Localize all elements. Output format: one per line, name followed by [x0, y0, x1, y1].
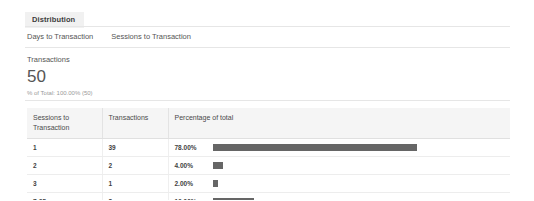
transactions-value: 39: [109, 144, 116, 151]
percentage-label: 16.00%: [175, 197, 213, 200]
table-row: 312.00%: [27, 175, 510, 193]
percentage-bar-group: 78.00%: [175, 143, 511, 152]
cell-dimension: 7-25: [27, 193, 102, 201]
transactions-value: 2: [109, 162, 113, 169]
secondary-tab-strip: Days to Transaction Sessions to Transact…: [27, 31, 209, 44]
column-header-transactions[interactable]: Transactions: [102, 108, 168, 139]
dimension-value: 3: [33, 180, 37, 187]
tab-sessions-to-transaction[interactable]: Sessions to Transaction: [111, 31, 191, 42]
percentage-bar-group: 2.00%: [175, 179, 511, 188]
cell-percentage: 2.00%: [168, 175, 510, 193]
cell-transactions: 39: [102, 139, 168, 157]
cell-transactions: 2: [102, 157, 168, 175]
cell-percentage: 16.00%: [168, 193, 510, 201]
cell-transactions: 1: [102, 175, 168, 193]
metric-summary: Transactions 50 % of Total: 100.00% (50): [27, 54, 93, 98]
cell-transactions: 8: [102, 193, 168, 201]
divider-under-primary-tab: [25, 26, 510, 27]
percentage-bar-group: 4.00%: [175, 161, 511, 170]
cell-percentage: 4.00%: [168, 157, 510, 175]
table-body: 13978.00%224.00%312.00%7-25816.00%: [27, 139, 510, 201]
table-row: 7-25816.00%: [27, 193, 510, 201]
dimension-value: 1: [33, 144, 37, 151]
column-header-percentage[interactable]: Percentage of total: [168, 108, 510, 139]
percentage-bar: [213, 144, 417, 151]
percentage-label: 2.00%: [175, 179, 213, 188]
divider-above-table: [25, 100, 510, 101]
cell-dimension: 1: [27, 139, 102, 157]
primary-tab-strip: Distribution: [25, 8, 510, 25]
cell-dimension: 2: [27, 157, 102, 175]
dimension-value: 7-25: [33, 198, 46, 200]
percentage-bar: [213, 180, 218, 187]
metric-percent-of-total: % of Total: 100.00% (50): [27, 89, 93, 98]
divider-under-secondary-tabs: [25, 47, 510, 48]
transactions-value: 8: [109, 198, 113, 200]
cell-percentage: 78.00%: [168, 139, 510, 157]
metric-value: 50: [27, 67, 93, 87]
dimension-value: 2: [33, 162, 37, 169]
distribution-report-panel: Distribution Days to Transaction Session…: [0, 0, 534, 200]
table-row: 13978.00%: [27, 139, 510, 157]
table-header-row: Sessions to Transaction Transactions Per…: [27, 108, 510, 139]
percentage-bar-group: 16.00%: [175, 197, 511, 200]
transactions-value: 1: [109, 180, 113, 187]
percentage-label: 4.00%: [175, 161, 213, 170]
distribution-table: Sessions to Transaction Transactions Per…: [27, 108, 510, 200]
column-header-dimension[interactable]: Sessions to Transaction: [27, 108, 102, 139]
cell-dimension: 3: [27, 175, 102, 193]
percentage-bar: [213, 162, 223, 169]
percentage-label: 78.00%: [175, 143, 213, 152]
metric-label: Transactions: [27, 54, 93, 65]
tab-days-to-transaction[interactable]: Days to Transaction: [27, 31, 93, 42]
table-row: 224.00%: [27, 157, 510, 175]
percentage-bar: [213, 198, 255, 200]
